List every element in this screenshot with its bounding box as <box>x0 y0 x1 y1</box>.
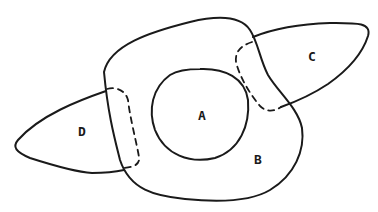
label-c: C <box>308 49 316 64</box>
label-a: A <box>198 108 206 123</box>
label-b: B <box>254 152 262 167</box>
set-diagram: A B C D <box>0 0 378 212</box>
region-c-outline <box>253 23 369 107</box>
diagram-canvas: A B C D <box>0 0 378 212</box>
label-d: D <box>78 124 86 139</box>
